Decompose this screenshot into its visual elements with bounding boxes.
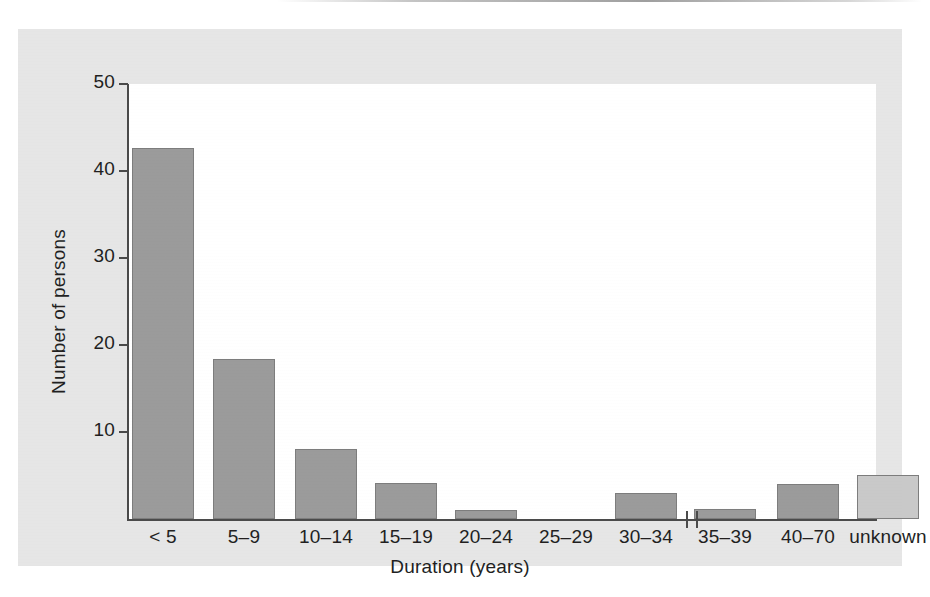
y-axis-tick xyxy=(119,83,128,85)
y-axis-tick xyxy=(119,257,128,259)
x-axis-line xyxy=(127,519,877,521)
y-axis-tick xyxy=(119,170,128,172)
bar xyxy=(132,148,194,519)
y-axis-tick xyxy=(119,344,128,346)
x-axis-title: Duration (years) xyxy=(18,556,902,578)
bar xyxy=(857,475,919,519)
y-axis-title: Number of persons xyxy=(48,229,70,394)
bar xyxy=(213,359,275,519)
y-axis-line xyxy=(127,84,129,520)
bar xyxy=(694,509,756,519)
bar xyxy=(295,449,357,519)
x-axis-tick-label: unknown xyxy=(828,526,930,548)
figure-panel: 1020304050 Number of persons < 55–910–14… xyxy=(18,29,902,566)
bar xyxy=(375,483,437,519)
y-axis-tick xyxy=(119,431,128,433)
y-axis-tick-label: 40 xyxy=(73,158,115,180)
scan-edge-artifact xyxy=(0,0,922,2)
y-axis-tick-label: 30 xyxy=(73,245,115,267)
bar xyxy=(615,493,677,519)
y-axis-tick-label: 50 xyxy=(73,71,115,93)
bar xyxy=(777,484,839,519)
bar xyxy=(455,510,517,519)
y-axis-tick-label: 20 xyxy=(73,332,115,354)
y-axis-tick-label: 10 xyxy=(73,419,115,441)
